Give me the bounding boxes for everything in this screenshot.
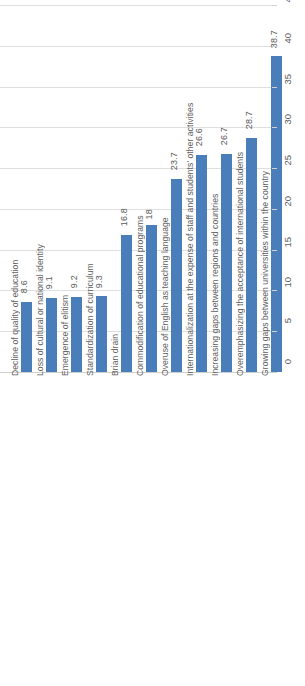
y-axis-tick-label: 35: [283, 74, 293, 85]
bar-value-label: 23.7: [170, 152, 179, 170]
category-label: Overemphasizing the acceptance of intern…: [235, 152, 246, 376]
y-axis-tick-label: 25: [283, 155, 293, 166]
bar-value-label: 9.3: [95, 275, 104, 288]
y-axis-tick-mark: [272, 209, 277, 210]
y-axis-tick-mark: [272, 5, 277, 6]
y-axis-tick: 10: [272, 285, 305, 295]
category-slot: Overuse of English as teaching language: [164, 376, 189, 686]
category-label: Internationalization at the expense of s…: [185, 103, 196, 376]
bar-value-label: 26.7: [220, 127, 229, 145]
y-axis-tick: 15: [272, 245, 305, 255]
y-axis-tick: 30: [272, 122, 305, 132]
y-axis-tick-label: 45: [283, 0, 293, 3]
category-slot: Emergence of elitism: [64, 376, 89, 686]
category-label: Overuse of English as teaching language: [160, 217, 171, 376]
bar-value-label: 26.6: [195, 128, 204, 146]
bar[interactable]: [196, 155, 207, 372]
bar-chart: 8.69.19.29.316.81823.726.626.728.738.7 0…: [0, 0, 305, 686]
bar[interactable]: [96, 296, 107, 372]
bar[interactable]: [121, 235, 132, 372]
category-label: Decline of quality of education: [10, 260, 21, 376]
y-axis-tick-mark: [272, 290, 277, 291]
category-axis-labels: Decline of quality of educationLoss of c…: [0, 376, 272, 686]
y-axis-tick: 20: [272, 204, 305, 214]
category-slot: Internationalization at the expense of s…: [189, 376, 214, 686]
category-slot: Growing gaps between universities within…: [264, 376, 289, 686]
bar[interactable]: [221, 154, 232, 372]
bar-value-label: 18: [145, 209, 154, 219]
y-axis-tick-mark: [272, 250, 277, 251]
category-label: Growing gaps between universities within…: [260, 171, 271, 376]
y-axis-tick-label: 5: [283, 318, 293, 323]
category-label: Loss of cultural or national identity: [35, 244, 46, 376]
bar-value-label: 8.6: [20, 280, 29, 293]
category-slot: Loss of cultural or national identity: [39, 376, 64, 686]
category-slot: Standardization of curriculum: [89, 376, 114, 686]
category-label: Brian drain: [110, 334, 121, 376]
bar[interactable]: [146, 225, 157, 372]
bar-value-label: 9.2: [70, 275, 79, 288]
y-axis-tick-mark: [272, 127, 277, 128]
y-axis-tick-mark: [272, 87, 277, 88]
bar-value-label: 28.7: [245, 111, 254, 129]
y-axis-tick: 40: [272, 41, 305, 51]
y-axis-tick-label: 20: [283, 196, 293, 207]
category-slot: Brian drain: [114, 376, 139, 686]
category-slot: Decline of quality of education: [14, 376, 39, 686]
category-label: Emergence of elitism: [60, 295, 71, 376]
bar[interactable]: [171, 179, 182, 372]
y-axis: 051015202530354045: [272, 0, 305, 380]
category-label: Standardization of curriculum: [85, 263, 96, 376]
y-axis-tick: 5: [272, 326, 305, 336]
category-slot: Increasing gaps between regions and coun…: [214, 376, 239, 686]
category-slot: Commodification of educational programs: [139, 376, 164, 686]
y-axis-tick-mark: [272, 331, 277, 332]
y-axis-tick-label: 15: [283, 237, 293, 248]
y-axis-tick: 45: [272, 0, 305, 10]
bar-value-label: 16.8: [120, 208, 129, 226]
y-axis-tick: 25: [272, 163, 305, 173]
bar-value-label: 9.1: [45, 276, 54, 289]
y-axis-tick-label: 40: [283, 33, 293, 44]
bar[interactable]: [246, 138, 257, 372]
category-label: Increasing gaps between regions and coun…: [210, 194, 221, 376]
category-label: Commodification of educational programs: [135, 215, 146, 376]
bar[interactable]: [71, 297, 82, 372]
y-axis-tick-mark: [272, 168, 277, 169]
bar[interactable]: [21, 302, 32, 372]
y-axis-tick-label: 30: [283, 114, 293, 125]
y-axis-tick-label: 10: [283, 277, 293, 288]
y-axis-tick: 35: [272, 82, 305, 92]
y-axis-tick-label: 0: [283, 359, 293, 364]
category-slot: Overemphasizing the acceptance of intern…: [239, 376, 264, 686]
bar[interactable]: [46, 298, 57, 372]
y-axis-tick-mark: [272, 372, 277, 373]
y-axis-tick-mark: [272, 46, 277, 47]
